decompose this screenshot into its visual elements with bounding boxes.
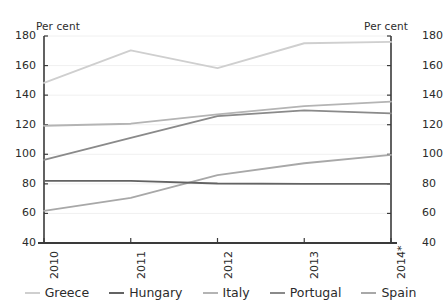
y-axis-tick-label: 60 xyxy=(6,207,36,218)
y-axis-tick-label: 100 xyxy=(6,148,36,159)
x-axis-tick-label: 2010 xyxy=(49,251,60,279)
legend-swatch-icon xyxy=(109,292,124,294)
y-axis-tick-label: 100 xyxy=(422,148,443,159)
legend-label: Italy xyxy=(223,287,250,300)
x-axis-tick-label: 2012 xyxy=(223,251,234,279)
legend-label: Greece xyxy=(45,287,90,300)
legend-item-hungary[interactable]: Hungary xyxy=(109,287,182,300)
left-y-axis-labels: 406080100120140160180 xyxy=(0,0,36,304)
y-axis-tick-label: 180 xyxy=(6,30,36,41)
legend-label: Portugal xyxy=(290,287,342,300)
y-axis-tick-label: 40 xyxy=(6,237,36,248)
legend-item-portugal[interactable]: Portugal xyxy=(270,287,342,300)
legend-swatch-icon xyxy=(203,292,218,294)
x-axis-tick-label: 2014* xyxy=(396,246,407,280)
legend-item-italy[interactable]: Italy xyxy=(203,287,250,300)
chart-legend: GreeceHungaryItalyPortugalSpain xyxy=(0,287,441,300)
y-axis-tick-label: 120 xyxy=(422,119,443,130)
legend-swatch-icon xyxy=(270,292,285,294)
left-axis-unit-label: Per cent xyxy=(36,20,80,32)
x-axis-tick-label: 2013 xyxy=(309,251,320,279)
series-line-greece xyxy=(44,42,391,83)
legend-label: Hungary xyxy=(129,287,182,300)
y-axis-tick-label: 120 xyxy=(6,119,36,130)
y-axis-tick-label: 80 xyxy=(422,178,436,189)
y-axis-tick-label: 80 xyxy=(6,178,36,189)
legend-item-spain[interactable]: Spain xyxy=(361,287,416,300)
right-y-axis-labels: 406080100120140160180 xyxy=(409,0,441,304)
y-axis-tick-label: 160 xyxy=(422,60,443,71)
series-line-portugal xyxy=(44,110,391,160)
right-axis-unit-label: Per cent xyxy=(364,20,408,32)
legend-item-greece[interactable]: Greece xyxy=(25,287,90,300)
y-axis-tick-label: 180 xyxy=(422,30,443,41)
y-axis-tick-label: 140 xyxy=(6,89,36,100)
y-axis-tick-label: 160 xyxy=(6,60,36,71)
series-line-italy xyxy=(44,102,391,126)
y-axis-tick-label: 140 xyxy=(422,89,443,100)
legend-swatch-icon xyxy=(25,292,40,294)
legend-label: Spain xyxy=(381,287,416,300)
x-axis-tick-label: 2011 xyxy=(136,251,147,279)
legend-swatch-icon xyxy=(361,292,376,294)
y-axis-tick-label: 40 xyxy=(422,237,436,248)
y-axis-tick-label: 60 xyxy=(422,207,436,218)
